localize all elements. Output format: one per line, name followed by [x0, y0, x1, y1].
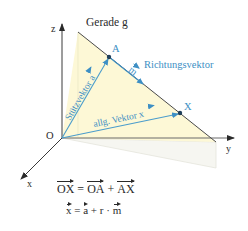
vector-m: m: [113, 204, 122, 216]
vector-oa: OA: [87, 182, 104, 197]
plane-shadow: [62, 138, 216, 168]
formula-plus: +: [104, 182, 117, 196]
point-a: [107, 55, 111, 59]
y-axis-label: y: [226, 143, 231, 154]
vector-a: a: [83, 204, 88, 216]
x-axis-label: x: [27, 178, 32, 189]
point-x-label: X: [184, 101, 192, 112]
direction-vector-label: Richtungsvektor: [144, 59, 214, 70]
formula-equals: =: [74, 182, 87, 196]
title-line-g: Gerade g: [86, 16, 128, 29]
z-axis-label: z: [51, 23, 56, 34]
formula-line-equation: x = a + r · m: [66, 204, 121, 216]
vector-ox: OX: [57, 182, 74, 197]
formula-vector-sum: OX = OA + AX: [57, 182, 135, 197]
x-axis: [21, 138, 62, 179]
point-x: [178, 111, 182, 115]
origin-label: O: [46, 130, 54, 141]
vector-x: x: [66, 204, 72, 216]
point-a-label: A: [112, 43, 120, 54]
formula2-equals: =: [72, 204, 84, 216]
vector-ax: AX: [117, 182, 134, 197]
formula2-plus-r: + r ·: [88, 204, 113, 216]
